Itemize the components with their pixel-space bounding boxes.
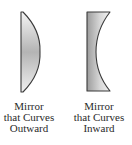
concave-mirror-icon: [87, 12, 110, 91]
caption-line: Inward: [66, 123, 132, 134]
convex-mirror-icon: [21, 12, 40, 92]
mirror-shapes: [0, 0, 132, 98]
convex-mirror-caption: Mirror that Curves Outward: [0, 101, 62, 134]
mirror-diagram: Mirror that Curves Outward Mirror that C…: [0, 0, 132, 145]
caption-line: Outward: [0, 123, 62, 134]
concave-mirror-caption: Mirror that Curves Inward: [66, 101, 132, 134]
